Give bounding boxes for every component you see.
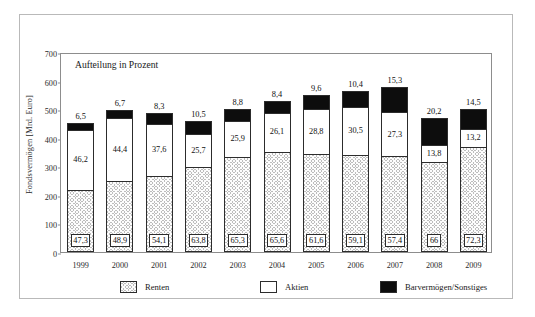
bar-top-label: 8,3: [154, 102, 164, 111]
y-axis-tick-mark: [58, 54, 61, 55]
bar-group: 8,337,654,12001: [146, 114, 173, 252]
bar-segment-label: 26,1: [270, 128, 285, 136]
legend-item: Barvermögen/Sonstiges: [380, 281, 487, 293]
bar-segment-label: 28,8: [309, 128, 324, 136]
y-axis-tick-label: 0: [17, 250, 57, 259]
bar-group: 8,825,965,32003: [224, 110, 251, 252]
bar-segment: [303, 95, 330, 110]
plot-area: Aufteilung in Prozent 010020030040050060…: [60, 53, 492, 253]
bar-segment-label: 46,2: [73, 156, 88, 164]
bar-segment-label: 63,8: [189, 234, 209, 247]
bar-segment-label: 37,6: [152, 146, 167, 154]
bar-segment-label: 57,4: [385, 234, 405, 247]
bar-segment: 57,4: [381, 156, 408, 252]
bar-segment: 59,1: [342, 155, 369, 252]
bar-segment: 65,6: [264, 152, 291, 252]
legend-label: Barvermögen/Sonstiges: [405, 282, 487, 292]
bar-segment: 63,8: [185, 167, 212, 252]
y-axis-tick-mark: [58, 196, 61, 197]
bar-segment: 27,3: [381, 112, 408, 157]
bar-segment: [460, 109, 487, 130]
bar-segment: 47,3: [67, 190, 94, 252]
bar-segment: 66: [421, 162, 448, 252]
bar-segment-label: 13,8: [427, 150, 442, 158]
y-axis-tick-mark: [58, 111, 61, 112]
y-axis-tick-mark: [58, 139, 61, 140]
chart-figure: Fondsvermögen [Mrd. Euro] Aufteilung in …: [0, 0, 535, 317]
bar-segment-label: 65,3: [228, 234, 248, 247]
legend-label: Renten: [145, 282, 169, 292]
bar-top-label: 10,5: [191, 110, 206, 119]
bar-segment-label: 66: [427, 234, 440, 247]
bar-segment: 54,1: [146, 176, 173, 252]
bar-segment: [185, 121, 212, 135]
x-axis-tick-label: 2005: [308, 261, 324, 270]
y-axis-tick-mark: [58, 82, 61, 83]
bar-segment: 26,1: [264, 113, 291, 153]
bar-top-label: 6,5: [75, 112, 85, 121]
bar-segment: [421, 118, 448, 145]
bar-segment: 28,8: [303, 109, 330, 155]
plot-title: Aufteilung in Prozent: [75, 59, 158, 70]
bar-segment: 37,6: [146, 124, 173, 177]
bar-segment-label: 27,3: [388, 131, 403, 139]
y-axis-tick-label: 500: [17, 107, 57, 116]
legend-swatch-icon: [120, 281, 137, 293]
bar-segment-label: 30,5: [348, 127, 363, 135]
x-axis-tick-label: 2007: [387, 261, 403, 270]
x-axis-tick-label: 2008: [426, 261, 442, 270]
legend-swatch-icon: [380, 281, 397, 293]
y-axis-tick-label: 600: [17, 78, 57, 87]
bar-segment-label: 48,9: [110, 234, 130, 247]
bar-group: 10,430,559,12006: [342, 92, 369, 252]
y-axis-tick-label: 200: [17, 192, 57, 201]
x-axis-tick-label: 2006: [347, 261, 363, 270]
bar-group: 10,525,763,82002: [185, 122, 212, 252]
bar-segment-label: 59,1: [346, 234, 366, 247]
bar-segment: 13,8: [421, 145, 448, 164]
x-axis-tick-label: 2003: [230, 261, 246, 270]
x-axis-tick-label: 2002: [190, 261, 206, 270]
bar-group: 15,327,357,42007: [381, 88, 408, 252]
bar-group: 8,426,165,62004: [264, 102, 291, 252]
legend-item: Aktien: [260, 281, 308, 293]
bar-top-label: 9,6: [311, 84, 321, 93]
x-axis-tick-label: 2009: [465, 261, 481, 270]
bar-top-label: 10,4: [348, 80, 363, 89]
y-axis-tick-label: 300: [17, 164, 57, 173]
y-axis-tick-label: 400: [17, 135, 57, 144]
legend-label: Aktien: [285, 282, 308, 292]
bar-segment-label: 54,1: [149, 234, 169, 247]
bar-group: 6,744,448,92000: [106, 111, 133, 252]
bar-segment-label: 13,2: [466, 134, 481, 142]
bar-segment: 30,5: [342, 107, 369, 157]
bar-segment: 46,2: [67, 130, 94, 191]
bar-top-label: 14,5: [466, 98, 481, 107]
y-axis-tick-mark: [58, 225, 61, 226]
bar-segment: [342, 91, 369, 108]
bar-segment: 44,4: [106, 118, 133, 182]
bar-segment-label: 47,3: [71, 234, 91, 247]
bar-segment-label: 25,9: [230, 135, 245, 143]
bar-top-label: 6,7: [115, 99, 125, 108]
y-axis-tick-mark: [58, 254, 61, 255]
y-axis-tick-label: 100: [17, 221, 57, 230]
bar-top-label: 8,4: [272, 90, 282, 99]
legend-item: Renten: [120, 281, 169, 293]
bar-group: 6,546,247,31999: [67, 124, 94, 252]
x-axis-tick-label: 2004: [269, 261, 285, 270]
x-axis-tick-label: 2000: [112, 261, 128, 270]
bar-segment-label: 25,7: [191, 147, 206, 155]
bar-top-label: 8,8: [232, 98, 242, 107]
bar-top-label: 15,3: [387, 76, 402, 85]
bar-segment: 48,9: [106, 181, 133, 252]
bar-segment: 61,6: [303, 154, 330, 252]
bar-segment-label: 72,3: [464, 234, 484, 247]
x-axis-tick-label: 1999: [72, 261, 88, 270]
bar-segment: 13,2: [460, 129, 487, 148]
bar-segment-label: 65,6: [267, 234, 287, 247]
bar-group: 20,213,8662008: [421, 119, 448, 252]
chart-legend: RentenAktienBarvermögen/Sonstiges: [20, 278, 512, 296]
bar-segment: [381, 87, 408, 112]
y-axis-tick-label: 700: [17, 50, 57, 59]
